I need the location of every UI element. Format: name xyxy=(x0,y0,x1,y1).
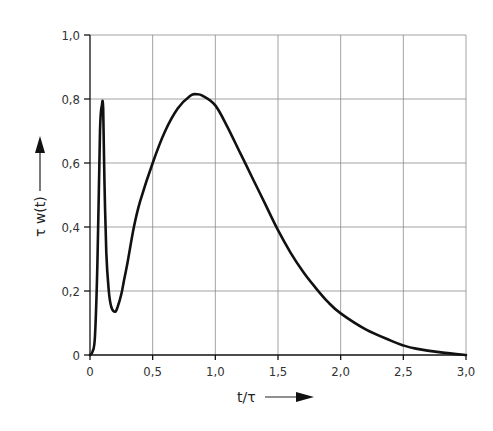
y-axis-label: τ w(t) xyxy=(32,136,48,237)
x-tick-label: 2,0 xyxy=(331,364,350,379)
y-tick-label: 0,6 xyxy=(61,156,80,171)
grid xyxy=(90,35,466,355)
x-tick-label: 3,0 xyxy=(457,364,476,379)
y-axis-label-text: τ w(t) xyxy=(32,196,48,237)
y-tick-label: 0,8 xyxy=(61,92,80,107)
chart: 00,51,01,52,02,53,0 00,20,40,60,81,0 t/τ… xyxy=(0,0,493,431)
y-tick-label: 0 xyxy=(73,348,80,363)
x-tick-label: 0,5 xyxy=(143,364,162,379)
x-axis-arrow-icon xyxy=(296,392,314,402)
y-axis-arrow-icon xyxy=(35,136,45,153)
x-tick-labels: 00,51,01,52,02,53,0 xyxy=(86,364,475,379)
x-tick-label: 2,5 xyxy=(394,364,413,379)
y-tick-label: 0,2 xyxy=(61,284,80,299)
x-tick-label: 1,0 xyxy=(206,364,225,379)
y-tick-label: 0,4 xyxy=(61,220,80,235)
y-tick-labels: 00,20,40,60,81,0 xyxy=(61,28,80,363)
x-tick-label: 0 xyxy=(86,364,93,379)
x-axis-label: t/τ xyxy=(237,389,314,405)
x-axis-label-text: t/τ xyxy=(237,389,256,405)
y-tick-label: 1,0 xyxy=(61,28,80,43)
x-tick-label: 1,5 xyxy=(269,364,288,379)
